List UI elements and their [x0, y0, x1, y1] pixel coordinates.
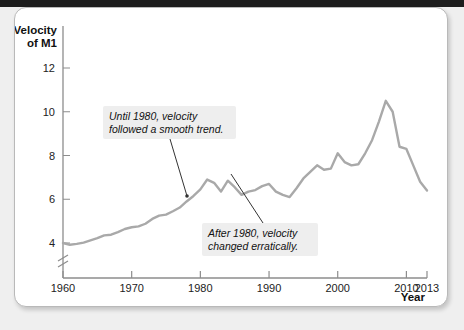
annotation-text-line1: After 1980, velocity [207, 227, 298, 239]
velocity-of-m1-line-chart: 4681012 1960197019801990200020102013 Vel… [15, 8, 448, 307]
x-tick-label: 1960 [51, 282, 75, 294]
y-tick-label: 6 [49, 193, 55, 205]
annotation-text-line1: Until 1980, velocity [109, 110, 198, 122]
annotation-leader-line [170, 139, 187, 196]
x-tick-label: 1970 [119, 282, 143, 294]
y-axis-ticks: 4681012 [43, 62, 70, 249]
y-tick-label: 8 [49, 150, 55, 162]
annotation-anchor-dot [185, 194, 189, 198]
annotation-text-line2: changed erratically. [208, 240, 298, 252]
x-tick-label: 2000 [325, 282, 349, 294]
chart-card: 4681012 1960197019801990200020102013 Vel… [14, 7, 448, 307]
y-tick-label: 12 [43, 62, 55, 74]
x-tick-label: 1980 [188, 282, 212, 294]
annotation-leader-line [231, 174, 263, 223]
top-dark-band [0, 0, 464, 7]
x-tick-label: 1990 [257, 282, 281, 294]
y-axis-title-line2: of M1 [27, 37, 58, 49]
annotation-text-line2: followed a smooth trend. [109, 123, 223, 135]
y-tick-label: 4 [49, 237, 55, 249]
x-axis-ticks: 1960197019801990200020102013 [51, 271, 439, 294]
y-axis-title-line1: Velocity [15, 24, 58, 36]
x-axis-title: Year [401, 291, 426, 303]
figure-container: 4681012 1960197019801990200020102013 Vel… [0, 0, 464, 330]
y-tick-label: 10 [43, 106, 55, 118]
